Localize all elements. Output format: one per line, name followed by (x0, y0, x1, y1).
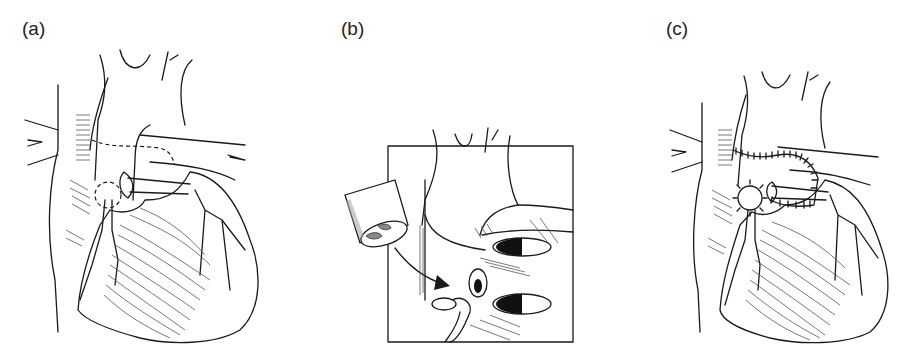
graft-cylinder (345, 180, 410, 252)
arrow-icon (434, 275, 450, 290)
panel-b: (b) (300, 0, 600, 362)
panel-c: (c) (600, 0, 899, 362)
panel-a: (a) (0, 0, 300, 362)
surgical-inset-diagram-b (300, 0, 600, 362)
heart-diagram-c (600, 0, 899, 362)
heart-diagram-a (0, 0, 300, 362)
